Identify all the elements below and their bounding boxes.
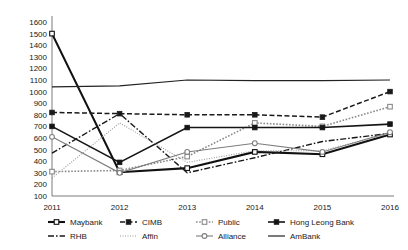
y-tick-label: 400 bbox=[34, 157, 48, 166]
data-point-marker bbox=[202, 234, 207, 239]
x-tick-label: 2012 bbox=[111, 203, 129, 212]
data-point-marker bbox=[388, 122, 393, 127]
data-point-marker bbox=[253, 125, 258, 130]
x-tick-label: 2013 bbox=[178, 203, 196, 212]
data-point-marker bbox=[253, 121, 258, 126]
x-tick-label: 2011 bbox=[43, 203, 61, 212]
y-tick-label: 1200 bbox=[29, 64, 47, 73]
legend-label: AmBank bbox=[290, 232, 321, 241]
x-tick-label: 2014 bbox=[246, 203, 264, 212]
line-chart: 1002003004005006007008009001000110012001… bbox=[0, 0, 408, 250]
data-point-marker bbox=[117, 160, 122, 165]
y-tick-label: 600 bbox=[34, 134, 48, 143]
y-tick-label: 200 bbox=[34, 180, 48, 189]
y-tick-label: 1300 bbox=[29, 53, 47, 62]
data-point-marker bbox=[253, 113, 258, 118]
data-point-marker bbox=[185, 154, 190, 159]
data-point-marker bbox=[320, 115, 325, 120]
data-point-marker bbox=[50, 110, 55, 115]
legend-label: RHB bbox=[70, 232, 87, 241]
y-tick-label: 500 bbox=[34, 146, 48, 155]
x-tick-label: 2016 bbox=[381, 203, 399, 212]
data-point-marker bbox=[50, 31, 55, 36]
data-point-marker bbox=[202, 220, 207, 225]
legend-label: Alliance bbox=[218, 232, 247, 241]
data-point-marker bbox=[185, 113, 190, 118]
y-tick-label: 900 bbox=[34, 99, 48, 108]
data-point-marker bbox=[320, 125, 325, 130]
data-point-marker bbox=[54, 220, 59, 225]
x-tick-label: 2015 bbox=[314, 203, 332, 212]
y-tick-label: 700 bbox=[34, 122, 48, 131]
y-tick-label: 1400 bbox=[29, 41, 47, 50]
data-point-marker bbox=[388, 104, 393, 109]
y-tick-label: 1000 bbox=[29, 88, 47, 97]
data-point-marker bbox=[320, 150, 325, 155]
y-tick-label: 1600 bbox=[29, 18, 47, 27]
chart-background bbox=[0, 0, 408, 250]
data-point-marker bbox=[185, 150, 190, 155]
legend-label: Public bbox=[218, 218, 240, 227]
data-point-marker bbox=[252, 141, 257, 146]
legend-label: Hong Leong Bank bbox=[290, 218, 355, 227]
y-tick-label: 1500 bbox=[29, 30, 47, 39]
data-point-marker bbox=[185, 125, 190, 130]
legend-label: Affin bbox=[142, 232, 158, 241]
y-tick-label: 100 bbox=[34, 192, 48, 201]
data-point-marker bbox=[388, 89, 393, 94]
data-point-marker bbox=[185, 166, 190, 171]
data-point-marker bbox=[388, 130, 393, 135]
y-tick-label: 1100 bbox=[30, 76, 48, 85]
data-point-marker bbox=[50, 134, 55, 139]
data-point-marker bbox=[274, 220, 279, 225]
chart-canvas: 1002003004005006007008009001000110012001… bbox=[0, 0, 408, 250]
y-tick-label: 300 bbox=[34, 169, 48, 178]
data-point-marker bbox=[50, 169, 55, 174]
data-point-marker bbox=[126, 220, 131, 225]
data-point-marker bbox=[50, 124, 55, 129]
data-point-marker bbox=[117, 170, 122, 175]
legend-label: CIMB bbox=[142, 218, 162, 227]
y-tick-label: 800 bbox=[34, 111, 48, 120]
legend-label: Maybank bbox=[70, 218, 103, 227]
